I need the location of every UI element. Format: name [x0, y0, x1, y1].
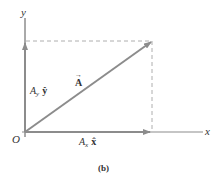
vector-arrow-accent: → — [75, 71, 82, 79]
vector-components-diagram: y x O A → Ayŷ Axx̂ (b) — [0, 0, 221, 179]
y-component-label: Ayŷ — [29, 85, 47, 98]
origin-label: O — [12, 133, 20, 145]
x-axis-label: x — [204, 125, 210, 137]
x-component-label: Axx̂ — [78, 136, 96, 149]
y-axis-label: y — [20, 6, 26, 18]
figure-caption: (b) — [98, 163, 109, 173]
